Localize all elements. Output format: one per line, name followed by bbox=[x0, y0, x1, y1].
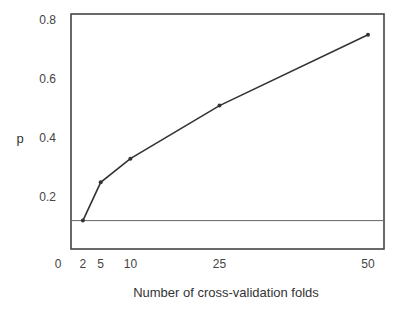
data-point bbox=[128, 157, 132, 161]
x-axis-label: Number of cross-validation folds bbox=[133, 285, 319, 300]
data-point bbox=[218, 104, 222, 108]
y-tick-label: 0.8 bbox=[39, 13, 56, 27]
data-point bbox=[81, 219, 85, 223]
data-point bbox=[99, 180, 103, 184]
x-tick-label: 5 bbox=[97, 257, 104, 271]
x-tick-label: 10 bbox=[124, 257, 138, 271]
x-tick-label: 0 bbox=[55, 257, 62, 271]
x-tick-label: 2 bbox=[80, 257, 87, 271]
data-point bbox=[366, 33, 370, 37]
y-axis-label: p bbox=[16, 131, 23, 146]
y-tick-label: 0.4 bbox=[39, 131, 56, 145]
x-tick-label: 25 bbox=[213, 257, 227, 271]
line-chart: 0.20.40.60.8 025102550 p Number of cross… bbox=[0, 0, 399, 312]
y-tick-label: 0.2 bbox=[39, 190, 56, 204]
data-line bbox=[83, 35, 368, 221]
y-tick-label: 0.6 bbox=[39, 72, 56, 86]
x-tick-label: 50 bbox=[361, 257, 375, 271]
